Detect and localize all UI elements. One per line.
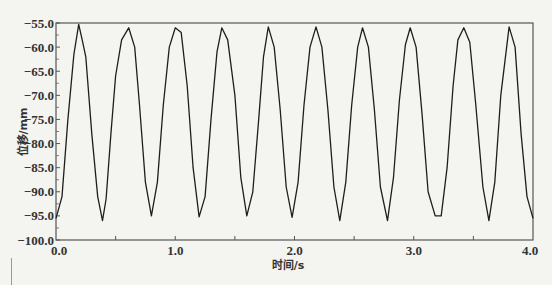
plot-area-frame <box>56 23 533 240</box>
x-tick-label: 4.0 <box>522 243 538 258</box>
y-tick-label: −55.0 <box>24 16 54 31</box>
y-tick-label: −95.0 <box>24 208 54 223</box>
x-tick-label: 0.0 <box>51 243 67 258</box>
displacement-series-line <box>56 24 533 220</box>
y-tick-label: −70.0 <box>24 88 54 103</box>
y-tick-label: −100.0 <box>17 233 54 248</box>
x-tick-label: 1.0 <box>167 243 183 258</box>
displacement-time-chart: −55.0−60.0−65.0−70.0−75.0−80.0−85.0−90.0… <box>0 0 552 285</box>
x-axis-title: 时间/s <box>272 258 305 272</box>
x-axis-ticks: 0.01.02.03.04.0 <box>51 236 538 258</box>
x-tick-label: 2.0 <box>286 243 302 258</box>
x-tick-label: 3.0 <box>406 243 422 258</box>
y-tick-label: −60.0 <box>24 40 54 55</box>
y-tick-label: −65.0 <box>24 64 54 79</box>
page-margin-mark <box>11 258 12 285</box>
y-tick-label: −90.0 <box>24 184 54 199</box>
y-tick-label: −85.0 <box>24 160 54 175</box>
y-axis-title: 位移/mm <box>16 108 30 157</box>
